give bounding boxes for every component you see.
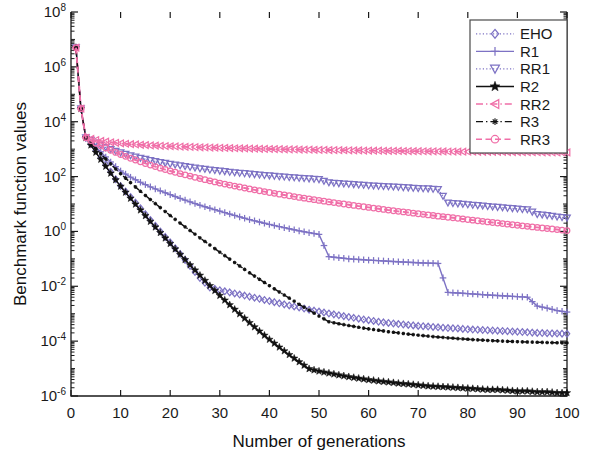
marker-asterisk [183, 225, 187, 229]
marker-asterisk [263, 281, 267, 285]
marker-asterisk [471, 338, 475, 342]
marker-asterisk [382, 329, 386, 333]
x-tick-label: 20 [162, 404, 179, 421]
marker-asterisk [387, 330, 391, 334]
marker-asterisk [441, 336, 445, 340]
marker-asterisk [352, 325, 356, 329]
x-tick-label: 40 [261, 404, 278, 421]
marker-asterisk [94, 147, 98, 151]
marker-asterisk [456, 337, 460, 341]
marker-asterisk [367, 327, 371, 331]
x-tick-label: 70 [410, 404, 427, 421]
marker-asterisk [208, 243, 212, 247]
chart-svg: 10-610-410-2100102104106108 010203040506… [0, 0, 592, 457]
marker-asterisk [307, 308, 311, 312]
marker-asterisk [273, 287, 277, 291]
marker-asterisk [114, 167, 118, 171]
legend-label-R2: R2 [520, 78, 539, 95]
marker-asterisk [119, 172, 123, 176]
marker-asterisk [104, 157, 108, 161]
marker-asterisk [129, 181, 133, 185]
marker-asterisk [302, 305, 306, 309]
marker-asterisk [486, 339, 490, 343]
marker-asterisk [377, 328, 381, 332]
marker-asterisk [521, 340, 525, 344]
marker-asterisk [406, 332, 410, 336]
marker-asterisk [297, 303, 301, 307]
legend[interactable]: EHOR1RR1R2RR2R3RR3 [470, 20, 567, 153]
legend-label-RR2: RR2 [520, 96, 550, 113]
marker-asterisk [411, 333, 415, 337]
marker-asterisk [287, 296, 291, 300]
marker-asterisk [243, 268, 247, 272]
x-axis-title: Number of generations [233, 432, 406, 451]
marker-asterisk [451, 336, 455, 340]
marker-asterisk [555, 341, 559, 345]
marker-asterisk [109, 162, 113, 166]
marker-asterisk [268, 284, 272, 288]
x-tick-label: 30 [211, 404, 228, 421]
marker-asterisk [501, 339, 505, 343]
marker-asterisk [491, 339, 495, 343]
marker-asterisk [218, 250, 222, 254]
marker-asterisk [337, 322, 341, 326]
marker-asterisk [342, 323, 346, 327]
marker-asterisk [322, 317, 326, 321]
marker-asterisk [362, 326, 366, 330]
marker-asterisk [476, 338, 480, 342]
marker-asterisk [233, 261, 237, 265]
marker-asterisk [466, 337, 470, 341]
benchmark-convergence-figure: 10-610-410-2100102104106108 010203040506… [0, 0, 592, 457]
legend-label-EHO: EHO [520, 25, 553, 42]
marker-asterisk [496, 339, 500, 343]
marker-asterisk [327, 320, 331, 324]
marker-asterisk [426, 334, 430, 338]
marker-asterisk [481, 338, 485, 342]
legend-label-RR3: RR3 [520, 131, 550, 148]
marker-asterisk [392, 331, 396, 335]
marker-asterisk [397, 331, 401, 335]
marker-asterisk [511, 340, 515, 344]
marker-asterisk [198, 236, 202, 240]
marker-asterisk [565, 341, 569, 345]
x-tick-label: 10 [112, 404, 129, 421]
marker-asterisk [163, 210, 167, 214]
legend-label-RR1: RR1 [520, 60, 550, 77]
legend-label-R1: R1 [520, 43, 539, 60]
marker-asterisk [292, 299, 296, 303]
marker-asterisk [238, 264, 242, 268]
marker-asterisk [188, 229, 192, 233]
marker-asterisk [332, 321, 336, 325]
marker-asterisk [312, 311, 316, 315]
marker-asterisk [540, 341, 544, 345]
y-axis-title: Benchmark function values [11, 102, 30, 306]
marker-asterisk [154, 202, 158, 206]
marker-asterisk [446, 336, 450, 340]
marker-asterisk [492, 118, 499, 125]
marker-asterisk [461, 337, 465, 341]
x-tick-label: 60 [360, 404, 377, 421]
marker-asterisk [372, 328, 376, 332]
marker-asterisk [282, 293, 286, 297]
x-tick-label: 0 [67, 404, 75, 421]
marker-asterisk [253, 274, 257, 278]
x-tick-label: 100 [554, 404, 579, 421]
marker-asterisk [347, 324, 351, 328]
marker-asterisk [99, 152, 103, 156]
x-tick-label: 80 [459, 404, 476, 421]
legend-label-R3: R3 [520, 113, 539, 130]
marker-asterisk [431, 335, 435, 339]
marker-asterisk [506, 340, 510, 344]
marker-asterisk [402, 332, 406, 336]
marker-asterisk [421, 334, 425, 338]
marker-asterisk [436, 335, 440, 339]
x-tick-label: 90 [509, 404, 526, 421]
marker-asterisk [317, 314, 321, 318]
marker-asterisk [149, 198, 153, 202]
marker-asterisk [550, 341, 554, 345]
marker-asterisk [416, 333, 420, 337]
marker-asterisk [526, 340, 530, 344]
marker-asterisk [357, 325, 361, 329]
x-tick-label: 50 [311, 404, 328, 421]
marker-asterisk [258, 277, 262, 281]
